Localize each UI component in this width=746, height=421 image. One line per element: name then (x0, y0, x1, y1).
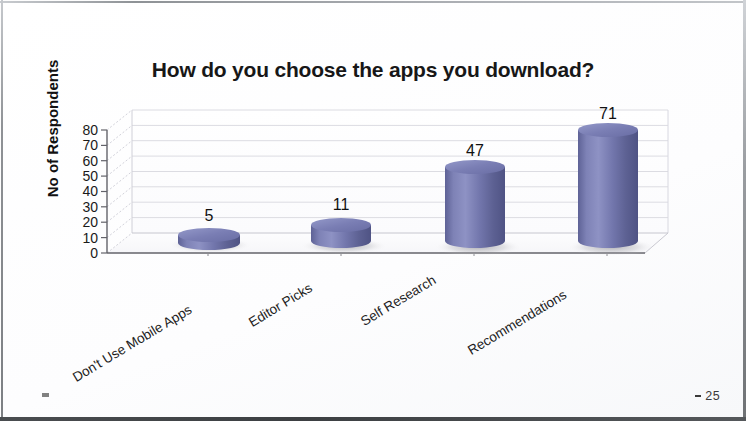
y-tick-70: 70 (64, 138, 98, 152)
bar-top-cap (445, 160, 505, 174)
y-tick-80: 80 (64, 123, 98, 137)
value-label-recommendations: 71 (578, 105, 638, 123)
value-label-dont-use-mobile-apps: 5 (178, 207, 240, 225)
bar-top-cap (178, 228, 240, 242)
y-axis-ticks (101, 130, 107, 253)
slide-canvas: How do you choose the apps you download? (0, 0, 746, 421)
y-tick-10: 10 (64, 231, 98, 245)
bar-top-cap (578, 123, 638, 137)
y-tick-50: 50 (64, 169, 98, 183)
y-tick-0: 0 (64, 246, 98, 260)
bar-body (445, 167, 505, 248)
page-dash-icon (695, 395, 701, 397)
y-tick-40: 40 (64, 184, 98, 198)
value-label-editor-picks: 11 (311, 196, 371, 214)
y-tick-30: 30 (64, 200, 98, 214)
y-tick-20: 20 (64, 215, 98, 229)
corner-bullet-mark (42, 393, 49, 397)
chart-depth-lines (107, 110, 132, 253)
page-number-value: 25 (705, 389, 720, 403)
value-label-self-research: 47 (445, 142, 505, 160)
chart-area: No of Respondents 80 70 60 50 40 30 20 1… (0, 0, 746, 421)
bar-body (578, 130, 638, 248)
page-number: 25 (695, 389, 720, 403)
bar-top-cap (311, 218, 371, 232)
y-axis-title: No of Respondents (44, 39, 61, 219)
y-tick-60: 60 (64, 154, 98, 168)
